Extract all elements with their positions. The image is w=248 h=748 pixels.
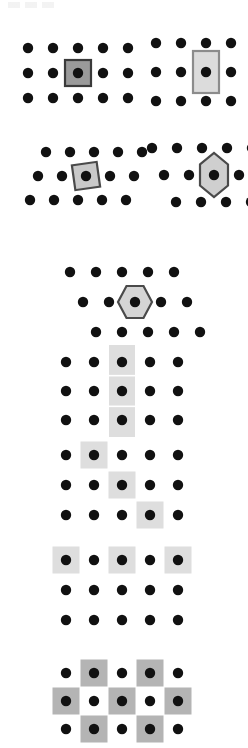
lattice-dot <box>61 480 71 490</box>
lattice-dot <box>23 68 33 78</box>
lattice-dot <box>49 195 59 205</box>
lattice-dot <box>57 171 67 181</box>
lattice-dot <box>117 450 127 460</box>
lattice-dot <box>201 38 211 48</box>
lattice-dot <box>89 555 99 565</box>
lattice-dot <box>89 450 99 460</box>
lattice-dot <box>176 67 186 77</box>
lattice-figure <box>0 0 248 748</box>
lattice-dot <box>91 267 101 277</box>
lattice-dot <box>117 267 127 277</box>
lattice-dot <box>145 357 155 367</box>
lattice-dot <box>145 668 155 678</box>
lattice-dot <box>78 297 88 307</box>
lattice-dot <box>117 724 127 734</box>
lattice-dot <box>61 357 71 367</box>
lattice-dot <box>98 43 108 53</box>
lattice-dot <box>173 724 183 734</box>
lattice-dot <box>65 267 75 277</box>
rectangular-unit-cell-canvas <box>126 13 248 131</box>
lattice-dot <box>176 96 186 106</box>
lattice-dot <box>173 480 183 490</box>
lattice-dot <box>173 585 183 595</box>
lattice-dot <box>73 195 83 205</box>
lattice-dot <box>145 386 155 396</box>
lattice-dot <box>117 357 127 367</box>
lattice-dot <box>171 197 181 207</box>
lattice-dot <box>222 143 232 153</box>
lattice-dot <box>246 197 248 207</box>
lattice-dot <box>23 93 33 103</box>
lattice-dot <box>151 38 161 48</box>
lattice-dot <box>184 170 194 180</box>
lattice-dot <box>117 510 127 520</box>
lattice-dot <box>226 96 236 106</box>
lattice-dot <box>173 668 183 678</box>
lattice-dot <box>89 668 99 678</box>
diagonal-cell-tiling-canvas <box>36 425 208 545</box>
lattice-dot <box>61 668 71 678</box>
lattice-dot <box>61 585 71 595</box>
lattice-dot <box>98 93 108 103</box>
lattice-dot <box>61 386 71 396</box>
lattice-dot <box>23 43 33 53</box>
lattice-dot <box>48 68 58 78</box>
lattice-dot <box>247 143 248 153</box>
lattice-dot-center <box>81 171 91 181</box>
scan-artifact <box>8 2 54 8</box>
lattice-dot <box>117 480 127 490</box>
panel-elongated-hexagon-unit-cell <box>122 118 248 232</box>
lattice-dot <box>145 615 155 625</box>
lattice-dot <box>173 696 183 706</box>
lattice-dot <box>151 67 161 77</box>
lattice-dot <box>173 615 183 625</box>
lattice-dot <box>145 450 155 460</box>
lattice-dot <box>117 615 127 625</box>
lattice-dot <box>145 585 155 595</box>
lattice-dot <box>61 615 71 625</box>
lattice-dot <box>61 724 71 734</box>
lattice-dot <box>197 143 207 153</box>
lattice-dot <box>89 480 99 490</box>
panel-checkerboard-tiling <box>36 643 208 748</box>
lattice-dot <box>117 585 127 595</box>
lattice-dot <box>117 555 127 565</box>
lattice-dot <box>145 480 155 490</box>
lattice-dot <box>201 96 211 106</box>
lattice-dot <box>173 415 183 425</box>
lattice-dot <box>48 43 58 53</box>
lattice-dot <box>226 67 236 77</box>
lattice-dot-center <box>209 170 219 180</box>
lattice-dot <box>97 195 107 205</box>
lattice-dot-center <box>73 68 83 78</box>
lattice-dot <box>117 696 127 706</box>
lattice-dot <box>151 96 161 106</box>
lattice-dot <box>173 450 183 460</box>
lattice-dot <box>147 143 157 153</box>
lattice-dot <box>117 668 127 678</box>
lattice-dot <box>89 415 99 425</box>
lattice-dot <box>173 386 183 396</box>
lattice-dot <box>172 143 182 153</box>
lattice-dot <box>173 510 183 520</box>
lattice-dot <box>65 147 75 157</box>
lattice-dot <box>89 510 99 520</box>
lattice-dot <box>89 147 99 157</box>
lattice-dot <box>145 415 155 425</box>
lattice-dot <box>159 170 169 180</box>
lattice-dot <box>117 415 127 425</box>
lattice-dot <box>61 450 71 460</box>
lattice-dot <box>25 195 35 205</box>
lattice-dot <box>145 510 155 520</box>
panel-rectangular-unit-cell <box>126 13 248 131</box>
lattice-dot <box>156 297 166 307</box>
lattice-dot <box>73 93 83 103</box>
lattice-dot <box>61 510 71 520</box>
lattice-dot <box>41 147 51 157</box>
lattice-dot <box>48 93 58 103</box>
lattice-dot <box>173 555 183 565</box>
lattice-dot <box>145 555 155 565</box>
lattice-dot <box>182 297 192 307</box>
lattice-dot <box>89 386 99 396</box>
lattice-dot <box>105 171 115 181</box>
